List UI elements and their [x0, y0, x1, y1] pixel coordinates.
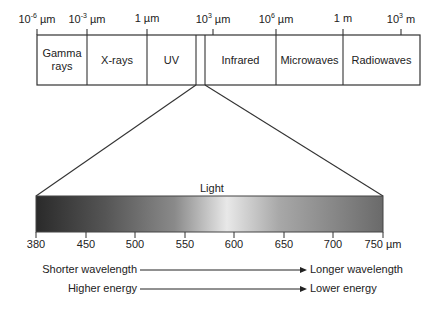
- band-infrared: Infrared: [205, 35, 276, 85]
- shorter-wavelength-label: Shorter wavelength: [42, 263, 137, 275]
- scale-label-3: 103 µm: [196, 12, 231, 25]
- scale-label-2: 1 µm: [135, 12, 160, 24]
- band-radiowaves: Radiowaves: [343, 35, 420, 85]
- longer-wavelength-label: Longer wavelength: [310, 263, 403, 275]
- band-x-rays: X-rays: [87, 35, 147, 85]
- nm-tick-550: 550: [176, 238, 194, 250]
- scale-label-5: 1 m: [334, 12, 352, 24]
- nm-tick-650: 650: [275, 238, 293, 250]
- band-uv: UV: [147, 35, 196, 85]
- scale-label-1: 10-3 µm: [68, 12, 105, 25]
- nm-tick-700: 700: [324, 238, 342, 250]
- band-microwaves: Microwaves: [276, 35, 343, 85]
- scale-label-6: 103 m: [387, 12, 415, 25]
- light-title: Light: [200, 182, 224, 194]
- scale-label-0: 10-6 µm: [18, 12, 55, 25]
- band-gamma-rays: Gamma rays: [37, 35, 87, 85]
- nm-tick-450: 450: [77, 238, 95, 250]
- visible-light-gradient: [36, 196, 383, 232]
- scale-label-4: 106 µm: [259, 12, 294, 25]
- lower-energy-label: Lower energy: [310, 282, 377, 294]
- nm-tick-500: 500: [126, 238, 144, 250]
- nm-tick-750: 750 µm: [365, 238, 402, 250]
- nm-tick-600: 600: [225, 238, 243, 250]
- higher-energy-label: Higher energy: [68, 282, 137, 294]
- nm-tick-380: 380: [27, 238, 45, 250]
